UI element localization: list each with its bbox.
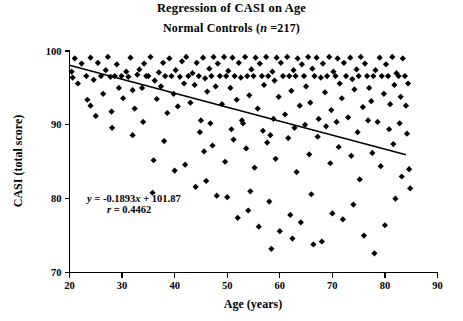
data-point [201,148,207,154]
chart-figure: Regression of CASI on Age Normal Control… [0,0,463,321]
data-point [294,169,300,175]
data-point [324,73,330,79]
data-point [154,96,160,102]
scatter-plot: 2030405060708090 708090100 Age (years) C… [0,0,463,321]
data-point [183,54,189,60]
data-point [152,77,158,83]
data-point [263,54,269,60]
data-point [245,207,251,213]
data-point [328,107,334,113]
data-point [341,60,347,66]
data-point [242,54,248,60]
x-tick-label: 60 [275,280,286,291]
x-axis-title: Age (years) [224,297,282,311]
data-point [265,73,271,79]
data-point [337,80,343,86]
data-point [318,74,324,80]
data-point [400,55,406,61]
data-point [369,150,375,156]
data-point [366,85,372,91]
data-point [193,184,199,190]
data-point [397,120,403,126]
data-point [286,73,292,79]
data-point [210,54,216,60]
data-point [351,86,357,92]
data-point [235,215,241,221]
data-point [161,138,167,144]
data-point [288,88,294,94]
data-point [383,61,389,67]
data-point [181,80,187,86]
data-point [307,100,313,106]
data-point [214,193,220,199]
data-point [196,73,202,79]
data-point [260,128,266,134]
data-point [340,216,346,222]
data-point [261,82,267,88]
y-axis-title: CASI (total score) [11,115,25,207]
data-point [390,141,396,147]
data-point [326,54,332,60]
data-point [192,82,198,88]
data-point [91,77,97,83]
data-point [264,139,270,145]
data-point [187,100,193,106]
data-point [389,54,395,60]
data-point [83,73,89,79]
data-point [403,103,409,109]
data-point [361,232,367,238]
data-point [297,103,303,109]
equation-tail: + 101.87 [141,193,181,204]
data-point [360,104,366,110]
data-point [166,55,172,61]
data-point [305,54,311,60]
data-point [385,73,391,79]
data-point [405,80,411,86]
x-tick-label: 90 [432,280,443,291]
data-point [206,66,212,72]
x-tick-label: 30 [117,280,128,291]
equation-body: = -0.1893 [92,193,136,204]
data-point [311,73,317,79]
data-point [100,91,106,97]
data-point [250,73,256,79]
data-point [151,157,157,163]
data-point [269,69,275,75]
data-point [315,134,321,140]
data-point [319,238,325,244]
data-point [365,117,371,123]
data-point [109,125,115,131]
data-point [203,178,209,184]
data-point [320,60,326,66]
data-point [173,67,179,73]
data-point [259,73,265,79]
data-point [156,69,162,75]
data-point [345,114,351,120]
data-point [404,131,410,137]
data-point [175,103,181,109]
data-point [402,73,408,79]
data-point [177,74,183,80]
data-point [316,116,322,122]
data-point [231,73,237,79]
data-point [224,194,230,200]
data-point [194,60,200,66]
data-point [276,94,282,100]
data-point [253,55,259,61]
data-point [78,60,84,66]
data-point [160,60,166,66]
data-point [354,129,360,135]
data-point [301,73,307,79]
data-point [368,98,374,104]
data-point [327,160,333,166]
data-point [198,117,204,123]
data-point [217,73,223,79]
data-point [168,73,174,79]
data-point [303,83,309,89]
data-point [147,54,153,60]
x-tick-label: 20 [64,280,75,291]
data-point [282,111,288,117]
data-point [349,76,355,82]
data-point [75,80,81,86]
x-tick-labels: 2030405060708090 [64,280,443,291]
